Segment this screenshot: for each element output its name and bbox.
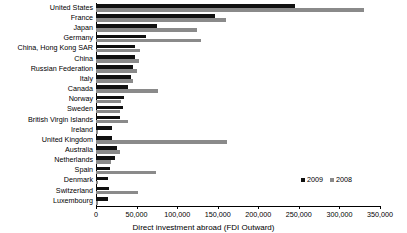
bar-2008[interactable] [96, 201, 98, 205]
bar-2008[interactable] [96, 120, 128, 124]
category-label: Sweden [0, 105, 93, 113]
bar-group [96, 135, 380, 145]
x-tick-mark [218, 206, 219, 209]
legend-item-2008[interactable]: 2008 [330, 176, 352, 184]
bar-2008[interactable] [96, 191, 138, 195]
legend-swatch-2008 [330, 178, 334, 182]
legend-label-2009: 2009 [307, 176, 323, 184]
bar-2008[interactable] [96, 8, 364, 12]
bar-group [96, 84, 380, 94]
x-tick-mark [96, 206, 97, 209]
bar-group [96, 94, 380, 104]
x-tick-label: 100,000 [164, 210, 190, 219]
bar-2008[interactable] [96, 59, 139, 63]
fdi-outward-bar-chart: United StatesFranceJapanGermanyChina, Ho… [0, 0, 407, 233]
bar-2008[interactable] [96, 28, 197, 32]
legend-swatch-2009 [301, 178, 305, 182]
bar-2008[interactable] [96, 18, 226, 22]
category-label: Switzerland [0, 187, 93, 195]
bar-group [96, 3, 380, 13]
category-label: Norway [0, 95, 93, 103]
bar-2008[interactable] [96, 160, 111, 164]
category-label: France [0, 14, 93, 22]
bar-2008[interactable] [96, 79, 133, 83]
category-label: Germany [0, 34, 93, 42]
category-label: British Virgin Islands [0, 116, 93, 124]
x-tick-mark [137, 206, 138, 209]
x-tick-mark [177, 206, 178, 209]
bar-group [96, 165, 380, 175]
bar-group [96, 74, 380, 84]
category-label: Russian Federation [0, 65, 93, 73]
bar-group [96, 105, 380, 115]
bar-group [96, 13, 380, 23]
category-label: China, Hong Kong SAR [0, 44, 93, 52]
bar-2008[interactable] [96, 110, 120, 114]
bar-2008[interactable] [96, 181, 98, 185]
x-tick-label: 300,000 [326, 210, 352, 219]
x-tick-label: 50,000 [126, 210, 148, 219]
bar-2008[interactable] [96, 49, 140, 53]
x-tick-label: 200,000 [245, 210, 271, 219]
category-label: Canada [0, 85, 93, 93]
bar-2008[interactable] [96, 140, 227, 144]
x-tick-mark [380, 206, 381, 209]
x-tick-mark [299, 206, 300, 209]
bar-2008[interactable] [96, 130, 98, 134]
bar-group [96, 64, 380, 74]
category-label: United Kingdom [0, 136, 93, 144]
bar-2008[interactable] [96, 69, 137, 73]
bar-2008[interactable] [96, 150, 120, 154]
bar-2008[interactable] [96, 171, 156, 175]
bar-group [96, 125, 380, 135]
bar-group [96, 145, 380, 155]
x-tick-mark [339, 206, 340, 209]
bar-group [96, 196, 380, 206]
x-tick-label: 250,000 [286, 210, 312, 219]
bar-group [96, 115, 380, 125]
category-label: Ireland [0, 126, 93, 134]
bar-2008[interactable] [96, 39, 201, 43]
category-label: Denmark [0, 176, 93, 184]
x-tick-mark [258, 206, 259, 209]
legend-item-2009[interactable]: 2009 [301, 176, 323, 184]
category-label: United States [0, 4, 93, 12]
x-tick-label: 0 [94, 210, 98, 219]
x-axis-line [96, 206, 381, 207]
bar-group [96, 33, 380, 43]
x-tick-label: 150,000 [205, 210, 231, 219]
category-label: China [0, 55, 93, 63]
bar-2008[interactable] [96, 89, 158, 93]
category-label: Spain [0, 166, 93, 174]
category-label: Luxembourg [0, 197, 93, 205]
bar-group [96, 186, 380, 196]
bar-group [96, 54, 380, 64]
category-label: Australia [0, 146, 93, 154]
x-tick-label: 350,000 [367, 210, 393, 219]
category-axis-labels: United StatesFranceJapanGermanyChina, Ho… [0, 3, 93, 206]
bar-2008[interactable] [96, 100, 121, 104]
bar-group [96, 155, 380, 165]
chart-legend: 2009 2008 [301, 176, 352, 184]
x-axis-title: Direct investment abroad (FDI Outward) [0, 222, 407, 233]
category-label: Japan [0, 24, 93, 32]
bar-2009[interactable] [96, 126, 112, 130]
category-label: Italy [0, 75, 93, 83]
bar-group [96, 23, 380, 33]
bar-group [96, 44, 380, 54]
category-label: Netherlands [0, 156, 93, 164]
legend-label-2008: 2008 [336, 176, 352, 184]
